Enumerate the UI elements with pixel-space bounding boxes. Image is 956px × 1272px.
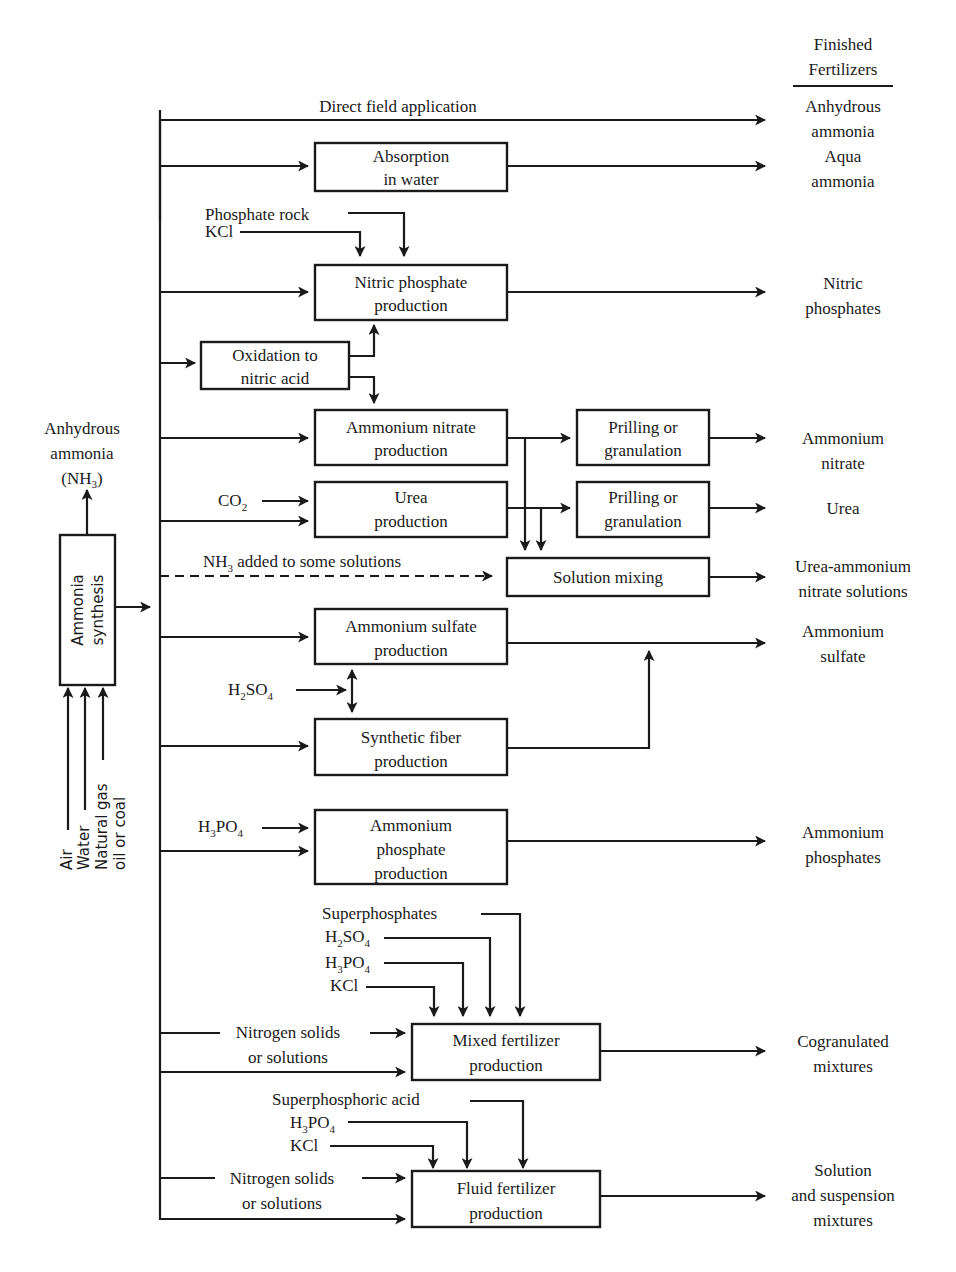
synthetic-fiber-row: Synthetic fiber production	[160, 651, 649, 775]
header-title-line1: Finished	[814, 35, 873, 54]
fluid-fertilizer-row: Superphosphoric acid H3PO4 KCl Nitrogen …	[160, 1090, 895, 1230]
solution-mixing-label: Solution mixing	[553, 568, 664, 587]
urea-label-1: Urea	[394, 488, 427, 507]
product-ammonium-phosphates-line2: phosphates	[805, 848, 881, 867]
mixed-fertilizer-label-2: production	[469, 1056, 543, 1075]
prilling-an-label-1: Prilling or	[608, 418, 678, 437]
ammonia-synthesis-label-2: synthesis	[89, 575, 107, 646]
superphosphates-arrow	[481, 914, 520, 1016]
product-ammonium-sulfate-line1: Ammonium	[802, 622, 884, 641]
prilling-urea-label-2: granulation	[604, 512, 682, 531]
fertilizer-flow-diagram: Finished Fertilizers Ammonia synthesis A…	[0, 0, 956, 1272]
input-superphosphates: Superphosphates	[322, 904, 437, 923]
prilling-urea-label-1: Prilling or	[608, 488, 678, 507]
nitric-phosphate-label-1: Nitric phosphate	[355, 273, 468, 292]
ammonium-phosphate-label-3: production	[374, 864, 448, 883]
nitrogen-solids-mixed-line1: Nitrogen solids	[236, 1023, 340, 1042]
ammonium-nitrate-row: Ammonium nitrate production Prilling or …	[160, 410, 884, 550]
oxidation-label-1: Oxidation to	[232, 346, 317, 365]
product-uan-line2: nitrate solutions	[798, 582, 907, 601]
anhydrous-output-formula: (NH3)	[61, 469, 102, 490]
h3po4-mixed-arrow	[384, 963, 463, 1016]
input-oil-or-coal: oil or coal	[111, 797, 129, 870]
ammonium-phosphate-row: H3PO4 Ammonium phosphate production Ammo…	[160, 810, 884, 884]
h2so4-mixed-arrow	[384, 938, 490, 1016]
ammonium-phosphate-label-2: phosphate	[377, 840, 446, 859]
input-h3po4-phosphate: H3PO4	[198, 817, 244, 839]
product-uan-line1: Urea-ammonium	[795, 557, 911, 576]
product-anhydrous-line2: ammonia	[811, 122, 875, 141]
ammonium-sulfate-label-2: production	[374, 641, 448, 660]
input-air: Air	[58, 849, 76, 870]
input-water: Water	[75, 825, 93, 870]
product-urea: Urea	[826, 499, 859, 518]
product-aqua-line2: ammonia	[811, 172, 875, 191]
mixed-fertilizer-row: Superphosphates H2SO4 H3PO4 KCl Nitrogen…	[160, 904, 889, 1080]
header-title-line2: Fertilizers	[809, 60, 878, 79]
kcl-nitric-arrow	[240, 232, 360, 256]
input-h2so4-sulfate: H2SO4	[228, 680, 274, 702]
nitrogen-solids-fluid-line2: or solutions	[242, 1194, 322, 1213]
kcl-fluid-arrow	[330, 1146, 433, 1168]
input-natural-gas: Natural gas	[93, 783, 111, 870]
kcl-mixed-arrow	[366, 987, 434, 1016]
nitrogen-solids-fluid-line1: Nitrogen solids	[230, 1169, 334, 1188]
nitric-phosphate-label-2: production	[374, 296, 448, 315]
input-kcl-mixed: KCl	[330, 976, 359, 995]
input-superphosphoric-acid: Superphosphoric acid	[272, 1090, 420, 1109]
input-h3po4-mixed: H3PO4	[325, 953, 371, 975]
ammonium-phosphate-label-1: Ammonium	[370, 816, 452, 835]
ammonium-nitrate-label-1: Ammonium nitrate	[346, 418, 476, 437]
ammonium-sulfate-label-1: Ammonium sulfate	[345, 617, 477, 636]
fluid-fertilizer-label-2: production	[469, 1204, 543, 1223]
absorption-label-2: in water	[383, 170, 439, 189]
oxidation-to-nitric-phosphate-arrow	[349, 325, 374, 356]
input-co2: CO2	[218, 491, 247, 513]
phosphate-rock-arrow	[348, 213, 404, 256]
solution-mixing-row: NH3 added to some solutions Solution mix…	[160, 552, 911, 601]
product-nitric-phosphates-line1: Nitric	[823, 274, 863, 293]
product-solution-line3: mixtures	[813, 1211, 873, 1230]
urea-label-2: production	[374, 512, 448, 531]
absorption-label-1: Absorption	[373, 147, 450, 166]
direct-application-row: Direct field application Anhydrous ammon…	[160, 97, 881, 222]
mixed-fertilizer-label-1: Mixed fertilizer	[452, 1031, 559, 1050]
fiber-to-sulfate-product-arrow	[507, 651, 649, 748]
input-kcl-fluid: KCl	[290, 1136, 319, 1155]
product-cogranulated-line1: Cogranulated	[797, 1032, 889, 1051]
direct-application-label: Direct field application	[319, 97, 477, 116]
fluid-fertilizer-label-1: Fluid fertilizer	[457, 1179, 556, 1198]
product-ammonium-nitrate-line1: Ammonium	[802, 429, 884, 448]
input-h3po4-fluid: H3PO4	[290, 1113, 336, 1135]
nh3-added-label: NH3 added to some solutions	[203, 552, 401, 574]
absorption-row: Absorption in water Aqua ammonia	[160, 143, 875, 191]
oxidation-label-2: nitric acid	[241, 369, 310, 388]
product-ammonium-nitrate-line2: nitrate	[821, 454, 864, 473]
nitric-phosphate-row: Phosphate rock KCl Nitric phosphate prod…	[160, 205, 881, 320]
product-anhydrous-line1: Anhydrous	[805, 97, 881, 116]
prilling-an-label-2: granulation	[604, 441, 682, 460]
superphosphoric-acid-arrow	[470, 1101, 523, 1168]
product-nitric-phosphates-line2: phosphates	[805, 299, 881, 318]
anhydrous-output-line2: ammonia	[50, 444, 114, 463]
product-aqua-line1: Aqua	[825, 147, 862, 166]
oxidation-to-ammonium-nitrate-arrow	[349, 377, 374, 403]
product-ammonium-phosphates-line1: Ammonium	[802, 823, 884, 842]
ammonia-synthesis-node: Ammonia synthesis Anhydrous ammonia (NH3…	[44, 419, 150, 870]
product-cogranulated-line2: mixtures	[813, 1057, 873, 1076]
product-solution-line1: Solution	[814, 1161, 872, 1180]
ammonium-nitrate-label-2: production	[374, 441, 448, 460]
urea-row: CO2 Urea production Prilling or granulat…	[160, 482, 860, 550]
nitrogen-solids-mixed-line2: or solutions	[248, 1048, 328, 1067]
input-kcl-nitric: KCl	[205, 222, 234, 241]
finished-fertilizers-header: Finished Fertilizers	[793, 35, 893, 86]
ammonium-sulfate-row: Ammonium sulfate production Ammonium sul…	[160, 609, 884, 712]
anhydrous-output-line1: Anhydrous	[44, 419, 120, 438]
oxidation-row: Oxidation to nitric acid	[160, 325, 374, 403]
product-solution-line2: and suspension	[791, 1186, 895, 1205]
ammonia-synthesis-label-1: Ammonia	[69, 574, 87, 646]
input-h2so4-mixed: H2SO4	[325, 927, 371, 949]
synthetic-fiber-label-2: production	[374, 752, 448, 771]
product-ammonium-sulfate-line2: sulfate	[820, 647, 865, 666]
synthetic-fiber-label-1: Synthetic fiber	[361, 728, 462, 747]
